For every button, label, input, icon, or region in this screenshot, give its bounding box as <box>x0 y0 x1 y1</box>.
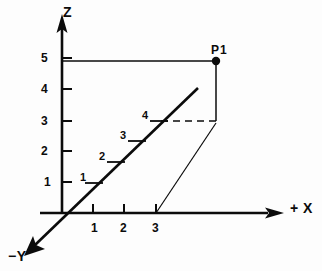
z-tick-label-2: 2 <box>41 145 48 157</box>
z-tick-label-1: 1 <box>44 176 51 188</box>
x-tick-label-2: 2 <box>120 222 127 234</box>
axes-svg <box>0 0 322 271</box>
diagram-canvas: Z + X −Y 5 4 3 2 1 1 2 3 1 2 3 4 P1 <box>0 0 322 271</box>
z-tick-label-3: 3 <box>41 115 48 127</box>
z-tick-label-4: 4 <box>41 83 48 95</box>
z-axis <box>57 14 73 213</box>
point-p1-marker[interactable] <box>212 57 220 65</box>
x-axis-label: + X <box>290 201 313 215</box>
y-axis <box>24 88 198 256</box>
x-tick-label-3: 3 <box>152 222 159 234</box>
y-axis-line <box>35 88 198 245</box>
z-tick-label-5: 5 <box>41 52 48 64</box>
construction-lines <box>62 61 216 213</box>
x-tick-label-1: 1 <box>91 222 98 234</box>
y-tick-label-1: 1 <box>80 172 87 183</box>
z-axis-label: Z <box>63 5 72 19</box>
y-axis-label: −Y <box>8 249 27 263</box>
point-p1-label: P1 <box>211 44 228 56</box>
y-tick-label-4: 4 <box>142 110 149 121</box>
projection-line-diagonal-x3 <box>156 123 216 213</box>
y-tick-label-2: 2 <box>99 151 106 162</box>
y-tick-label-3: 3 <box>120 130 127 141</box>
